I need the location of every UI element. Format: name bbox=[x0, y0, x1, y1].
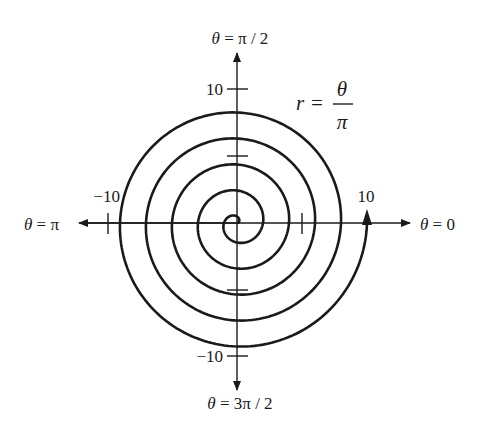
tick-label-left: −10 bbox=[93, 187, 120, 206]
tick-label-right: 10 bbox=[358, 187, 375, 206]
equation-label: r = θ π bbox=[296, 77, 353, 134]
axis-label-left: θ = π bbox=[24, 215, 59, 234]
diagram-canvas: 10 −10 −10 10 θ = π / 2 θ = 3π / 2 θ = π… bbox=[0, 0, 481, 432]
equation-numerator: θ bbox=[337, 77, 347, 101]
equation-lhs: r bbox=[296, 91, 305, 115]
polar-spiral-diagram: 10 −10 −10 10 θ = π / 2 θ = 3π / 2 θ = π… bbox=[0, 0, 481, 432]
axis-label-right: θ = 0 bbox=[420, 215, 455, 234]
axis-label-top: θ = π / 2 bbox=[212, 29, 269, 48]
axis-label-bottom: θ = 3π / 2 bbox=[207, 394, 272, 413]
equation-denominator: π bbox=[337, 110, 348, 134]
spiral-end-arrow-icon bbox=[362, 209, 372, 225]
equation-equals: = bbox=[311, 91, 323, 115]
tick-label-top: 10 bbox=[206, 80, 223, 99]
tick-label-bottom: −10 bbox=[196, 347, 223, 366]
archimedean-spiral-curve bbox=[120, 112, 367, 346]
